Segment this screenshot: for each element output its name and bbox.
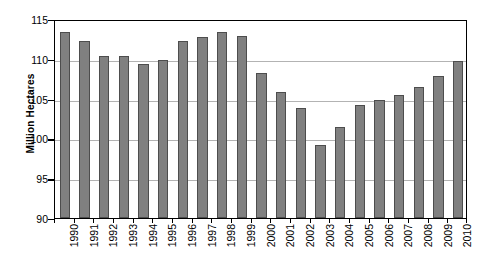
x-axis-tick-mark — [447, 219, 448, 223]
bar — [158, 60, 168, 218]
y-axis-tick-label: 95 — [22, 174, 48, 184]
x-axis-tick-label: 1997 — [206, 224, 218, 270]
x-axis-tick-mark — [93, 219, 94, 223]
y-axis-tick-mark — [48, 219, 54, 220]
x-axis-tick-label: 2001 — [284, 224, 296, 270]
bar — [276, 92, 286, 218]
x-axis-tick-mark — [270, 219, 271, 223]
bar — [119, 56, 129, 218]
x-axis-tick-mark — [172, 219, 173, 223]
x-axis-tick-mark — [74, 219, 75, 223]
y-axis-tick-label: 100 — [22, 134, 48, 144]
x-axis-tick-mark — [369, 219, 370, 223]
y-axis-tick-mark — [48, 100, 54, 101]
bar — [138, 64, 148, 218]
x-axis-tick-mark — [408, 219, 409, 223]
bar — [217, 32, 227, 218]
x-axis-tick-mark — [231, 219, 232, 223]
bar — [178, 41, 188, 218]
x-axis-tick-mark — [251, 219, 252, 223]
x-axis-tick-mark — [133, 219, 134, 223]
x-axis-tick-label: 1993 — [127, 224, 139, 270]
bar — [394, 95, 404, 218]
y-axis-tick-label: 110 — [22, 55, 48, 65]
bar — [335, 127, 345, 219]
bar — [296, 108, 306, 218]
y-axis-tick-mark — [48, 179, 54, 180]
bar — [60, 32, 70, 218]
x-axis-tick-label: 2006 — [383, 224, 395, 270]
bar-chart: Million Hectares 9095100105110115 199019… — [0, 0, 487, 273]
x-axis-tick-mark — [349, 219, 350, 223]
bar — [256, 73, 266, 218]
bar — [414, 87, 424, 218]
bar — [433, 76, 443, 219]
x-axis-tick-label: 2004 — [343, 224, 355, 270]
bars-layer — [55, 21, 466, 218]
x-axis-tick-mark — [192, 219, 193, 223]
x-axis-tick-label: 1994 — [147, 224, 159, 270]
x-axis-tick-labels: 1990199119921993199419951996199719981999… — [54, 224, 467, 273]
x-axis-tick-mark — [54, 219, 55, 223]
x-axis-tick-label: 2007 — [402, 224, 414, 270]
bar — [237, 36, 247, 218]
y-axis-tick-label: 105 — [22, 95, 48, 105]
bar — [315, 145, 325, 218]
x-axis-tick-label: 2000 — [265, 224, 277, 270]
x-axis-tick-label: 1999 — [245, 224, 257, 270]
x-axis-tick-mark — [113, 219, 114, 223]
x-axis-tick-label: 1990 — [68, 224, 80, 270]
y-axis-tick-label: 90 — [22, 214, 48, 224]
y-axis-tick-mark — [48, 20, 54, 21]
x-axis-tick-mark — [310, 219, 311, 223]
bar — [374, 100, 384, 218]
x-axis-tick-label: 1991 — [88, 224, 100, 270]
x-axis-tick-mark — [466, 219, 467, 223]
x-axis-tick-label: 2003 — [324, 224, 336, 270]
x-axis-tick-label: 1998 — [225, 224, 237, 270]
bar — [79, 41, 89, 218]
x-axis-tick-label: 2005 — [363, 224, 375, 270]
x-axis-tick-label: 2002 — [304, 224, 316, 270]
x-axis-tick-label: 1996 — [186, 224, 198, 270]
y-axis-tick-labels: 9095100105110115 — [22, 0, 48, 273]
x-axis-tick-label: 1992 — [107, 224, 119, 270]
x-axis-tick-mark — [428, 219, 429, 223]
bar — [355, 105, 365, 218]
plot-area — [54, 20, 467, 219]
bar — [99, 56, 109, 218]
x-axis-tick-mark — [329, 219, 330, 223]
y-axis-tick-mark — [48, 60, 54, 61]
x-axis-tick-mark — [290, 219, 291, 223]
x-axis-tick-label: 2008 — [422, 224, 434, 270]
x-axis-tick-label: 2010 — [461, 224, 473, 270]
x-axis-tick-mark — [388, 219, 389, 223]
bar — [197, 37, 207, 218]
x-axis-tick-label: 2009 — [442, 224, 454, 270]
y-axis-tick-label: 115 — [22, 15, 48, 25]
x-axis-tick-mark — [211, 219, 212, 223]
y-axis-tick-mark — [48, 139, 54, 140]
bar — [453, 61, 463, 218]
x-axis-tick-label: 1995 — [166, 224, 178, 270]
x-axis-tick-mark — [152, 219, 153, 223]
